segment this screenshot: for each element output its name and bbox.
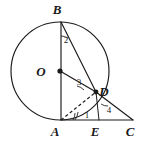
angle-arc-A [73,113,75,120]
point-label-E: E [90,124,100,139]
geometry-canvas: B O A D E C 2 3 1 4 [0,0,150,145]
center-point-O [57,68,62,73]
point-label-C: C [126,124,135,139]
point-label-A: A [50,124,60,139]
angle-label-4: 4 [107,105,112,115]
angle-label-3: 3 [77,77,82,87]
angle-arc-1 [75,112,78,120]
vertex-point-D [94,90,99,95]
angle-label-1: 1 [85,110,90,120]
point-label-D: D [98,84,109,99]
angle-label-2: 2 [64,35,69,45]
point-label-B: B [52,2,62,17]
point-label-O: O [36,64,46,79]
geometry-figure: B O A D E C 2 3 1 4 [0,0,150,145]
